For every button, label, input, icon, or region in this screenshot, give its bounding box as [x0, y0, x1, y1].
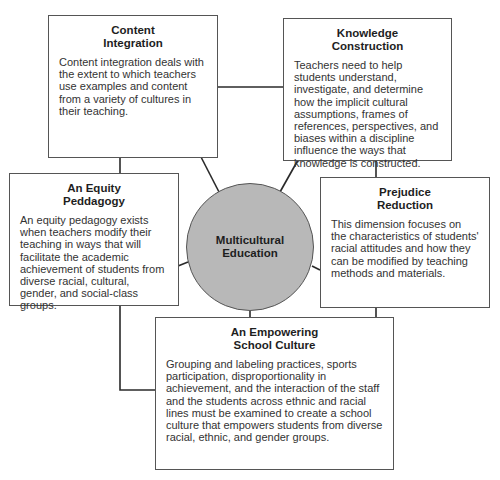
prejudice-reduction-box: Prejudice Reduction This dimension focus…	[320, 177, 490, 308]
multicultural-education-label: Multicultural Education	[216, 234, 284, 260]
equity-pedagogy-title: An Equity Peddagogy	[20, 182, 168, 208]
prejudice-reduction-description: This dimension focuses on the characteri…	[331, 218, 479, 279]
knowledge-construction-box: Knowledge Construction Teachers need to …	[283, 18, 452, 161]
empowering-school-culture-box: An Empowering School Culture Grouping an…	[155, 317, 394, 470]
content-integration-box: Content Integration Content integration …	[48, 15, 218, 158]
content-integration-title: Content Integration	[59, 24, 207, 50]
empowering-school-culture-description: Grouping and labeling practices, sports …	[166, 358, 383, 443]
content-integration-description: Content integration deals with the exten…	[59, 56, 207, 117]
equity-pedagogy-box: An Equity Peddagogy An equity pedagogy e…	[9, 173, 179, 306]
empowering-school-culture-title: An Empowering School Culture	[166, 326, 383, 352]
knowledge-construction-title: Knowledge Construction	[294, 27, 441, 53]
multicultural-education-circle: Multicultural Education	[186, 183, 314, 311]
prejudice-reduction-title: Prejudice Reduction	[331, 186, 479, 212]
knowledge-construction-description: Teachers need to help students understan…	[294, 59, 441, 169]
equity-pedagogy-description: An equity pedagogy exists when teachers …	[20, 214, 168, 312]
